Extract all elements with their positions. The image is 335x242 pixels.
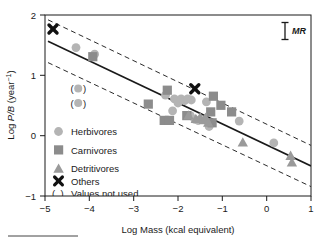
data-point-carnivore	[209, 92, 218, 101]
y-axis-title-end: )	[5, 70, 16, 73]
legend-marker-circle	[54, 127, 63, 136]
data-point-herbivore	[235, 117, 244, 126]
y-axis-title-italic: P/B	[5, 105, 16, 121]
data-point-carnivore	[227, 107, 236, 116]
legend-label-carnivores: Carnivores	[71, 145, 117, 156]
x-tick-label: 1	[308, 203, 313, 214]
legend-label-others: Others	[71, 176, 100, 187]
x-tick-label: −3	[128, 203, 139, 214]
data-point-herbivore	[72, 43, 81, 52]
data-point-herbivore	[187, 96, 196, 105]
scatter-plot: −5 −4 −3 −2 −1 0 1 2 1 0 −1 Log Mass (kc…	[0, 0, 335, 242]
data-point-herbivore	[269, 139, 278, 148]
y-tick-label: 0	[31, 130, 36, 141]
x-tick-label: −1	[217, 203, 228, 214]
y-tick-label: 2	[31, 10, 36, 21]
data-point-carnivore	[144, 100, 153, 109]
x-tick-label: −5	[40, 203, 51, 214]
x-axis-title: Log Mass (kcal equivalent)	[122, 224, 235, 235]
x-tick-label: −2	[173, 203, 184, 214]
data-point-carnivore	[88, 52, 97, 61]
svg-text:): )	[83, 98, 86, 109]
data-point-herbivore	[168, 106, 177, 115]
data-point-carnivore	[206, 107, 215, 116]
y-axis-title-sup: −1	[5, 73, 12, 81]
y-axis-title-mid: (year	[5, 82, 16, 106]
mr-error-bar-label: MR	[292, 26, 306, 36]
x-tick-label: 0	[264, 203, 269, 214]
data-point-carnivore	[165, 116, 174, 125]
y-axis-title-prefix: Log	[5, 121, 16, 140]
figure-container: −5 −4 −3 −2 −1 0 1 2 1 0 −1 Log Mass (kc…	[0, 0, 335, 242]
data-point-carnivore	[163, 86, 172, 95]
y-tick-label: −1	[25, 191, 36, 202]
y-tick-label: 1	[31, 70, 36, 81]
legend-marker-square	[54, 145, 63, 154]
data-point-carnivore	[216, 101, 225, 110]
legend-label-herbivores: Herbivores	[71, 126, 117, 137]
legend-label-detritivores: Detritivores	[71, 163, 119, 174]
svg-text:): )	[83, 83, 86, 94]
x-tick-label: −4	[84, 203, 95, 214]
